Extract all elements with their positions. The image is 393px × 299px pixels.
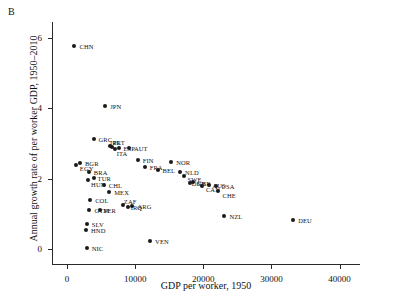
data-point bbox=[107, 190, 111, 194]
y-tick bbox=[48, 179, 52, 180]
data-point bbox=[110, 145, 114, 149]
data-point bbox=[200, 184, 204, 188]
y-axis-line bbox=[52, 22, 53, 265]
data-point bbox=[74, 163, 78, 167]
panel-label: B bbox=[8, 6, 15, 17]
data-point-label: NZL bbox=[229, 213, 242, 220]
data-point bbox=[216, 189, 220, 193]
y-tick bbox=[48, 249, 52, 250]
data-point-label: USA bbox=[221, 182, 234, 189]
data-point bbox=[169, 160, 173, 164]
data-point bbox=[92, 176, 96, 180]
data-point bbox=[72, 44, 76, 48]
data-point bbox=[156, 168, 160, 172]
data-point-label: AUT bbox=[134, 145, 148, 152]
data-point-label: CHN bbox=[79, 42, 93, 49]
data-point bbox=[207, 183, 211, 187]
data-point-label: MEX bbox=[114, 189, 129, 196]
x-tick bbox=[135, 265, 136, 269]
data-point-label: ZAF bbox=[124, 198, 137, 205]
data-point bbox=[92, 137, 96, 141]
y-axis-title: Annual growth rate of per worker GDP, 19… bbox=[28, 14, 39, 264]
data-point bbox=[291, 218, 295, 222]
data-point-label: NIC bbox=[92, 245, 104, 252]
data-point bbox=[85, 222, 89, 226]
data-point bbox=[126, 205, 130, 209]
data-point-label: IRL bbox=[110, 139, 121, 146]
x-tick bbox=[203, 265, 204, 269]
data-point bbox=[222, 214, 226, 218]
data-point bbox=[86, 178, 90, 182]
data-point bbox=[103, 104, 107, 108]
x-tick bbox=[340, 265, 341, 269]
data-point-label: COL bbox=[95, 196, 108, 203]
data-point bbox=[87, 170, 91, 174]
data-point-label: CHL bbox=[109, 182, 122, 189]
data-point-label: CHE bbox=[223, 191, 236, 198]
data-point-label: PER bbox=[104, 206, 116, 213]
data-point-label: HND bbox=[91, 226, 105, 233]
data-point-label: ITA bbox=[117, 150, 128, 157]
data-point bbox=[87, 208, 91, 212]
data-point bbox=[84, 228, 88, 232]
data-point bbox=[214, 184, 218, 188]
data-point bbox=[102, 183, 106, 187]
data-point bbox=[182, 174, 186, 178]
data-point bbox=[98, 208, 102, 212]
data-point bbox=[127, 146, 131, 150]
data-point bbox=[148, 239, 152, 243]
x-tick bbox=[67, 265, 68, 269]
data-point bbox=[136, 158, 140, 162]
x-tick bbox=[271, 265, 272, 269]
data-point bbox=[88, 198, 92, 202]
data-point-label: BEL bbox=[163, 166, 176, 173]
x-axis-title: GDP per worker, 1950 bbox=[52, 280, 360, 291]
data-point-label: JPN bbox=[110, 102, 121, 109]
y-tick bbox=[48, 108, 52, 109]
chart-figure: B 010000200003000040000 0246 CHNJPNGRCES… bbox=[0, 0, 393, 299]
plot-area: 010000200003000040000 0246 CHNJPNGRCESPP… bbox=[52, 22, 360, 265]
x-axis-line bbox=[52, 264, 360, 265]
data-point bbox=[85, 246, 89, 250]
data-point bbox=[143, 165, 147, 169]
data-point-label: NOR bbox=[176, 158, 190, 165]
y-tick bbox=[48, 38, 52, 39]
data-point-label: VEN bbox=[155, 238, 169, 245]
data-point-label: DEU bbox=[298, 217, 312, 224]
